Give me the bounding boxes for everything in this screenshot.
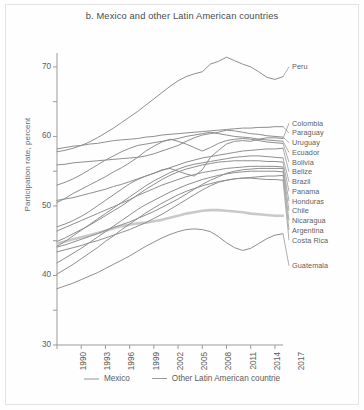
series-line-uruguay — [57, 130, 283, 165]
leader-line-peru — [283, 67, 289, 77]
series-label-costa-rica: Costa Rica — [292, 236, 328, 245]
leader-line-colombia — [283, 123, 289, 138]
series-label-chile: Chile — [292, 206, 309, 215]
leader-line-uruguay — [283, 137, 289, 143]
x-axis-tick-label: 2002 — [176, 352, 185, 370]
series-label-uruguay: Uruguay — [292, 138, 320, 147]
series-label-guatemala: Guatemala — [292, 261, 328, 270]
series-label-ecuador: Ecuador — [292, 148, 320, 157]
y-axis-label: Participation rate, percent — [23, 90, 32, 240]
x-axis-tick-label: 2005 — [200, 352, 209, 370]
series-label-argentina: Argentina — [292, 226, 324, 235]
x-axis-tick-label: 2014 — [273, 352, 282, 370]
series-label-nicaragua: Nicaragua — [292, 216, 326, 225]
y-axis-tick-label: 40 — [29, 270, 51, 279]
legend-label: Other Latin American countrie — [172, 374, 280, 383]
x-axis-tick-label: 1993 — [103, 352, 112, 370]
x-axis-tick-label: 2008 — [225, 352, 234, 370]
series-label-bolivia: Bolivia — [292, 158, 314, 167]
chart-legend: MexicoOther Latin American countrie — [0, 374, 364, 383]
series-label-brazil: Brazil — [292, 177, 311, 186]
legend-swatch — [84, 378, 99, 380]
legend-swatch — [152, 378, 167, 379]
plot-area — [57, 53, 283, 345]
page-title: b. Mexico and other Latin American count… — [0, 11, 364, 21]
series-line-mexico — [57, 210, 283, 243]
series-line-costa-rica — [57, 178, 283, 252]
x-axis-tick-label: 1990 — [79, 352, 88, 370]
legend-item-other: Other Latin American countrie — [152, 374, 280, 383]
series-label-honduras: Honduras — [292, 197, 324, 206]
y-axis-tick-label: 50 — [29, 201, 51, 210]
y-axis-tick-label: 30 — [29, 340, 51, 349]
x-axis-tick-label: 2011 — [248, 352, 257, 370]
series-label-belize: Belize — [292, 167, 312, 176]
y-axis-tick-label: 70 — [29, 62, 51, 71]
x-axis-tick-label: 2017 — [297, 352, 306, 370]
series-label-panama: Panama — [292, 187, 319, 196]
series-label-colombia: Colombia — [292, 119, 323, 128]
x-axis-tick-label: 1999 — [152, 352, 161, 370]
chart-figure: b. Mexico and other Latin American count… — [0, 0, 364, 410]
line-chart-canvas — [57, 53, 291, 351]
legend-label: Mexico — [104, 374, 130, 383]
leader-line-guatemala — [283, 234, 289, 266]
legend-item-mexico: Mexico — [84, 374, 130, 383]
series-label-peru: Peru — [292, 62, 308, 71]
series-label-paraguay: Paraguay — [292, 128, 324, 137]
y-axis-tick-label: 60 — [29, 131, 51, 140]
leader-line-paraguay — [283, 127, 289, 133]
x-axis-tick-label: 1996 — [128, 352, 137, 370]
series-line-guatemala — [57, 229, 283, 289]
